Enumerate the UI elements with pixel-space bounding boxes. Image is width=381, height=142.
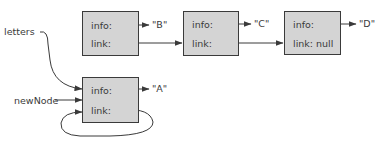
node-b-link-field: link:: [91, 38, 111, 49]
value-b: "B": [152, 19, 167, 30]
node-d-info-field: info:: [293, 19, 314, 30]
value-c: "C": [254, 18, 269, 29]
node-a-info-field: info:: [91, 85, 112, 96]
value-a: "A": [152, 83, 167, 94]
value-d: "D": [359, 18, 375, 29]
node-b-info-field: info:: [91, 20, 112, 31]
node-c-info-field: info:: [192, 19, 213, 30]
node-c-link-field: link:: [192, 38, 212, 49]
linked-list-diagram: letters newNode info: link: "B" info: li…: [0, 0, 381, 142]
node-c: info: link:: [183, 11, 239, 56]
node-a-link-field: link:: [91, 105, 111, 116]
node-d-link-field: link: null: [293, 38, 333, 49]
node-d: info: link: null: [284, 11, 341, 55]
node-b: info: link:: [82, 11, 139, 56]
letters-label: letters: [4, 26, 35, 37]
node-a: info: link:: [82, 77, 139, 123]
newnode-label: newNode: [14, 95, 58, 106]
arrow-letters-to-a: [40, 32, 82, 89]
